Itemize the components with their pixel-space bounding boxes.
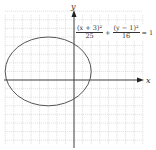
equation-label: (x + 3)² 25 + (y − 1)² 16 = 1 (76, 25, 153, 40)
equals-one: = 1 (142, 29, 154, 37)
fraction-2: (y − 1)² 16 (113, 25, 140, 40)
fraction-1-denominator: 25 (85, 33, 93, 40)
x-axis-label: x (146, 76, 151, 85)
y-axis-label: y (70, 2, 76, 11)
coordinate-plane: x y (0, 0, 156, 150)
fraction-2-denominator: 16 (122, 33, 130, 40)
plus-sign: + (105, 29, 110, 37)
fraction-1: (x + 3)² 25 (76, 25, 103, 40)
